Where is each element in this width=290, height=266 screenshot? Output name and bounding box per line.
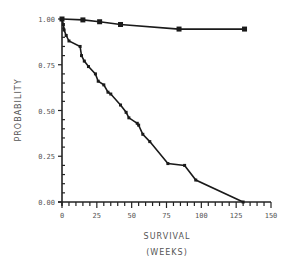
data-point-marker [183,164,186,167]
data-point-marker [102,83,105,86]
y-tick-label: 0.75 [38,62,55,70]
data-point-marker [166,162,169,165]
x-axis-label: SURVIVAL [144,232,191,241]
y-tick-label: 0.50 [38,108,55,116]
data-point-marker [97,19,102,24]
data-point-marker [242,27,247,32]
data-point-marker [118,22,123,27]
x-tick-label: 25 [93,212,101,220]
data-point-marker [177,27,182,32]
data-point-marker [106,91,109,94]
data-point-marker [94,72,97,75]
y-tick-label: 0.25 [38,153,55,161]
data-point-marker [137,124,140,127]
data-point-marker [97,80,100,83]
data-point-marker [141,133,144,136]
data-point-marker [80,54,83,57]
x-tick-label: 125 [230,212,243,220]
data-point-marker [119,104,122,107]
x-tick-label: 100 [195,212,208,220]
data-point-marker [80,17,85,22]
data-point-marker [127,116,130,119]
data-point-marker [125,111,128,114]
x-tick-label: 50 [127,212,135,220]
chart-canvas: 0.000.250.500.751.000255075100125150 PRO… [0,0,290,266]
data-point-marker [194,179,197,182]
x-tick-label: 75 [162,212,170,220]
data-point-marker [79,45,82,48]
data-point-marker [242,201,245,204]
x-axis-units: (WEEKS) [146,248,188,257]
axes: 0.000.250.500.751.000255075100125150 [38,16,277,220]
data-point-marker [61,18,64,21]
series-line-upper [62,19,245,29]
data-point-marker [65,34,68,37]
survival-chart: 0.000.250.500.751.000255075100125150 PRO… [0,0,290,266]
data-point-marker [87,65,90,68]
data-point-marker [148,140,151,143]
y-axis-label: PROBABILITY [14,78,23,141]
y-tick-label: 0.00 [38,199,55,207]
data-point-marker [83,60,86,63]
data-point-marker [67,39,70,42]
series-layer [60,17,248,204]
data-point-marker [62,23,65,26]
y-tick-label: 1.00 [38,16,55,24]
x-tick-label: 0 [60,212,64,220]
series-line-lower [62,19,243,202]
data-point-marker [63,28,66,31]
data-point-marker [109,93,112,96]
x-tick-label: 150 [265,212,278,220]
